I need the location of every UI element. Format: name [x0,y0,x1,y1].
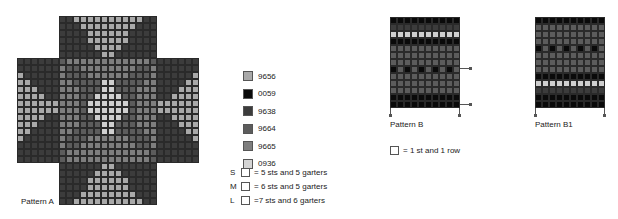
chart-cell [31,93,38,100]
chart-cell [556,45,563,52]
chart-cell [164,58,171,65]
chart-cell [52,135,59,142]
chart-cell [171,156,178,163]
chart-cell [94,30,101,37]
chart-cell [129,58,136,65]
chart-cell [52,142,59,149]
chart-cell [584,80,591,87]
chart-cell [38,65,45,72]
chart-cell [563,24,570,31]
chart-cell [38,142,45,149]
chart-cell [535,17,542,24]
chart-cell [542,59,549,66]
chart-cell [136,16,143,23]
chart-cell [136,23,143,30]
chart-cell [404,24,411,31]
chart-cell [17,177,24,184]
chart-cell [584,24,591,31]
chart-cell [136,37,143,44]
chart-cell [24,149,31,156]
chart-cell [80,44,87,51]
chart-cell [136,191,143,198]
chart-cell [171,44,178,51]
repeat-marker-dot [603,114,606,117]
chart-cell [94,177,101,184]
chart-cell [122,198,129,205]
chart-cell [52,121,59,128]
chart-cell [129,51,136,58]
chart-cell [115,142,122,149]
chart-cell [411,45,418,52]
chart-cell [185,184,192,191]
square-icon [241,182,250,191]
chart-cell [24,72,31,79]
chart-cell [425,73,432,80]
chart-cell [101,121,108,128]
chart-cell [59,86,66,93]
chart-cell [66,170,73,177]
chart-cell [66,198,73,205]
chart-cell [591,101,598,108]
chart-cell [143,93,150,100]
chart-cell [150,37,157,44]
chart-cell [446,45,453,52]
chart-cell [556,73,563,80]
chart-cell [584,45,591,52]
chart-cell [38,23,45,30]
chart-cell [136,184,143,191]
chart-cell [563,73,570,80]
chart-cell [164,44,171,51]
chart-cell [150,142,157,149]
chart-cell [390,66,397,73]
chart-cell [66,135,73,142]
chart-cell [591,66,598,73]
chart-cell [24,44,31,51]
size-row-m: M = 6 sts and 5 garters [230,181,327,192]
chart-cell [59,100,66,107]
chart-cell [535,80,542,87]
chart-cell [31,184,38,191]
chart-cell [80,163,87,170]
chart-cell [157,198,164,205]
chart-cell [31,149,38,156]
chart-cell [453,24,460,31]
chart-cell [157,142,164,149]
legend-item: 9638 [243,104,276,118]
chart-cell [17,149,24,156]
chart-cell [87,58,94,65]
chart-cell [45,30,52,37]
chart-cell [157,163,164,170]
chart-cell [73,79,80,86]
chart-cell [129,79,136,86]
chart-cell [87,93,94,100]
chart-cell [31,23,38,30]
square-icon [241,168,250,177]
chart-cell [570,87,577,94]
chart-cell [87,135,94,142]
chart-cell [178,16,185,23]
chart-cell [73,23,80,30]
chart-cell [185,191,192,198]
chart-cell [432,31,439,38]
chart-cell [591,87,598,94]
chart-cell [591,31,598,38]
chart-cell [136,156,143,163]
chart-cell [45,51,52,58]
chart-cell [157,37,164,44]
chart-cell [453,66,460,73]
chart-cell [101,107,108,114]
chart-cell [192,163,199,170]
chart-cell [397,59,404,66]
chart-cell [101,170,108,177]
chart-cell [178,86,185,93]
chart-cell [143,51,150,58]
chart-cell [80,65,87,72]
chart-cell [108,142,115,149]
chart-cell [404,31,411,38]
chart-cell [59,114,66,121]
chart-cell [446,17,453,24]
chart-cell [390,31,397,38]
chart-cell [164,170,171,177]
chart-cell [185,100,192,107]
chart-cell [418,94,425,101]
